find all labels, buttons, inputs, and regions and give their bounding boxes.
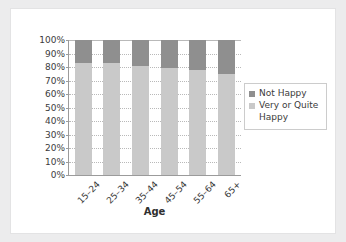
x-tick-label: 45–54 (163, 180, 189, 206)
legend-label: Happy (259, 112, 288, 123)
x-tick-label: 65+ (223, 180, 243, 200)
y-tick-label: 40% (45, 117, 65, 126)
bar-segment[interactable] (161, 40, 178, 68)
bar-series-group (69, 40, 241, 175)
bar-segment[interactable] (132, 66, 149, 175)
bar-segment[interactable] (218, 40, 235, 74)
x-tick-label: 15–24 (77, 180, 103, 206)
bar-column[interactable] (75, 40, 92, 175)
bar-segment[interactable] (189, 40, 206, 70)
bar-segment[interactable] (103, 40, 120, 63)
y-tick-label: 50% (45, 103, 65, 112)
bar-column[interactable] (189, 40, 206, 175)
y-tick-label: 70% (45, 76, 65, 85)
x-tick-label: 55–64 (192, 180, 218, 206)
legend-swatch (249, 115, 255, 121)
y-tick-mark (66, 175, 69, 176)
bar-segment[interactable] (189, 70, 206, 175)
y-tick-label: 100% (39, 36, 65, 45)
bar-column[interactable] (161, 40, 178, 175)
bar-segment[interactable] (75, 63, 92, 175)
bar-column[interactable] (103, 40, 120, 175)
bar-segment[interactable] (103, 63, 120, 175)
y-tick-label: 30% (45, 130, 65, 139)
legend-swatch (249, 103, 255, 109)
y-tick-label: 90% (45, 49, 65, 58)
chart-legend: Not HappyVery or QuiteHappy (244, 83, 327, 130)
chart-card: 0%10%20%30%40%50%60%70%80%90%100% 15–242… (10, 8, 336, 234)
legend-item[interactable]: Very or Quite (249, 100, 322, 111)
bar-column[interactable] (218, 40, 235, 175)
bar-segment[interactable] (161, 68, 178, 175)
y-tick-label: 0% (51, 171, 65, 180)
legend-label: Not Happy (259, 88, 307, 99)
y-tick-label: 80% (45, 63, 65, 72)
bar-column[interactable] (132, 40, 149, 175)
bar-segment[interactable] (218, 74, 235, 175)
y-tick-label: 20% (45, 144, 65, 153)
x-axis-title: Age (68, 206, 241, 217)
plot-area: 0%10%20%30%40%50%60%70%80%90%100% (68, 40, 241, 176)
legend-swatch (249, 91, 255, 97)
bar-segment[interactable] (132, 40, 149, 66)
y-tick-label: 60% (45, 90, 65, 99)
legend-item[interactable]: Happy (249, 112, 322, 123)
bar-segment[interactable] (75, 40, 92, 63)
y-tick-label: 10% (45, 157, 65, 166)
legend-item[interactable]: Not Happy (249, 88, 322, 99)
x-tick-label: 25–34 (106, 180, 132, 206)
x-tick-label: 35–44 (134, 180, 160, 206)
legend-label: Very or Quite (259, 100, 318, 111)
